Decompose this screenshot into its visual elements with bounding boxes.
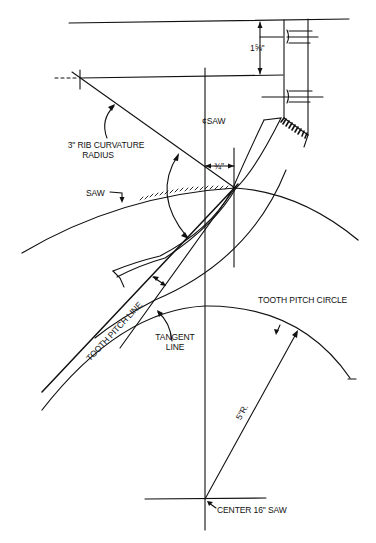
block-dimension-label: 1⅝" bbox=[250, 43, 265, 53]
saw-tooth-diagram bbox=[0, 0, 376, 543]
saw-circle bbox=[22, 188, 358, 253]
saw-block bbox=[262, 19, 323, 147]
tooth-pitch-circle-label: TOOTH PITCH CIRCLE bbox=[258, 295, 347, 305]
center-horizontal-line bbox=[145, 498, 266, 499]
offset-dimension-label: ¾" bbox=[214, 161, 224, 171]
pitch-radius-line bbox=[205, 332, 297, 499]
saw-centerline-label: ¢SAW bbox=[202, 116, 225, 126]
saw-hatch bbox=[140, 186, 228, 200]
rib-radius-line bbox=[72, 72, 235, 188]
rib-curvature-label: 3" RIB CURVATURE RADIUS bbox=[56, 140, 156, 160]
tangent-line-label: TANGENT LINE bbox=[145, 332, 205, 352]
rib-center-line bbox=[80, 75, 283, 78]
top-reference-line bbox=[69, 19, 349, 23]
saw-label: SAW bbox=[86, 188, 105, 198]
center-saw-label: CENTER 16" SAW bbox=[217, 505, 287, 515]
tooth-pitch-line bbox=[42, 184, 238, 392]
rib-label-arrow bbox=[105, 106, 114, 138]
tangent-label-line1: TANGENT bbox=[145, 332, 205, 342]
block-dim-arrow-bottom bbox=[258, 68, 263, 74]
tangent-label-line2: LINE bbox=[145, 342, 205, 352]
rib-curvature-label-line2: RADIUS bbox=[40, 150, 156, 160]
block-dim-arrow-top bbox=[258, 22, 263, 28]
rib-curvature-label-line1: 3" RIB CURVATURE bbox=[56, 140, 156, 150]
